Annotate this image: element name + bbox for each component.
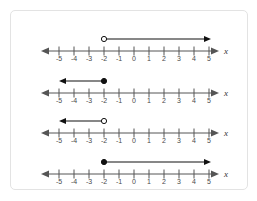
tick-label: 2 bbox=[162, 97, 166, 104]
tick-label: 4 bbox=[192, 137, 196, 144]
axis-right-arrow-icon bbox=[211, 171, 219, 178]
tick-labels-group-1: -5 -4 -3 -2 -1 0 1 2 3 4 5 bbox=[56, 55, 211, 62]
tick-label: 1 bbox=[147, 137, 151, 144]
tick-label: -5 bbox=[56, 55, 62, 62]
axis-group-1 bbox=[41, 48, 219, 55]
endpoint-closed-circle bbox=[101, 159, 106, 164]
number-line-1: -5 -4 -3 -2 -1 0 1 2 3 4 5 x bbox=[11, 22, 249, 62]
tick-label: 5 bbox=[207, 55, 211, 62]
tick-label: 3 bbox=[177, 178, 181, 185]
ray-group-4 bbox=[101, 159, 211, 165]
axis-variable-label: x bbox=[223, 88, 228, 98]
tick-label: 3 bbox=[177, 137, 181, 144]
axis-left-arrow-icon bbox=[41, 90, 49, 97]
endpoint-open-circle bbox=[101, 118, 106, 123]
number-line-2-svg: -5 -4 -3 -2 -1 0 1 2 3 4 5 x bbox=[11, 64, 249, 104]
number-line-3-svg: -5 -4 -3 -2 -1 0 1 2 3 4 5 x bbox=[11, 104, 249, 144]
tick-label: 3 bbox=[177, 55, 181, 62]
tick-label: 2 bbox=[162, 55, 166, 62]
ray-arrow-left-icon bbox=[59, 78, 66, 84]
tick-label: -2 bbox=[101, 178, 107, 185]
number-line-2: -5 -4 -3 -2 -1 0 1 2 3 4 5 x bbox=[11, 64, 249, 104]
tick-label: 0 bbox=[132, 97, 136, 104]
tick-label: 4 bbox=[192, 178, 196, 185]
axis-variable-label: x bbox=[223, 169, 228, 179]
axis-left-arrow-icon bbox=[41, 171, 49, 178]
ray-arrow-left-icon bbox=[59, 118, 66, 124]
tick-labels-group-3: -5 -4 -3 -2 -1 0 1 2 3 4 5 bbox=[56, 137, 211, 144]
tick-label: -3 bbox=[86, 137, 92, 144]
axis-left-arrow-icon bbox=[41, 48, 49, 55]
axis-right-arrow-icon bbox=[211, 130, 219, 137]
endpoint-closed-circle bbox=[101, 78, 106, 83]
axis-variable-label: x bbox=[223, 46, 228, 56]
tick-label: -1 bbox=[116, 97, 122, 104]
tick-label: 5 bbox=[207, 137, 211, 144]
tick-label: -2 bbox=[101, 137, 107, 144]
tick-label: 0 bbox=[132, 55, 136, 62]
axis-right-arrow-icon bbox=[211, 48, 219, 55]
ray-group-1 bbox=[101, 36, 211, 42]
number-line-3: -5 -4 -3 -2 -1 0 1 2 3 4 5 x bbox=[11, 104, 249, 144]
tick-label: 2 bbox=[162, 178, 166, 185]
number-line-1-svg: -5 -4 -3 -2 -1 0 1 2 3 4 5 x bbox=[11, 22, 249, 62]
number-line-4-svg: -5 -4 -3 -2 -1 0 1 2 3 4 5 x bbox=[11, 145, 249, 185]
axis-group-2 bbox=[41, 90, 219, 97]
tick-label: -1 bbox=[116, 137, 122, 144]
axis-group-4 bbox=[41, 171, 219, 178]
tick-label: -2 bbox=[101, 97, 107, 104]
tick-label: 5 bbox=[207, 178, 211, 185]
tick-label: -1 bbox=[116, 178, 122, 185]
tick-label: -1 bbox=[116, 55, 122, 62]
tick-label: 2 bbox=[162, 137, 166, 144]
ray-group-2 bbox=[59, 78, 107, 84]
tick-label: -5 bbox=[56, 137, 62, 144]
tick-label: -5 bbox=[56, 97, 62, 104]
axis-right-arrow-icon bbox=[211, 90, 219, 97]
tick-label: 3 bbox=[177, 97, 181, 104]
tick-label: 5 bbox=[207, 97, 211, 104]
tick-label: -4 bbox=[71, 178, 77, 185]
ray-arrow-right-icon bbox=[204, 36, 211, 42]
tick-label: -3 bbox=[86, 178, 92, 185]
tick-label: 1 bbox=[147, 97, 151, 104]
axis-left-arrow-icon bbox=[41, 130, 49, 137]
endpoint-open-circle bbox=[101, 36, 106, 41]
tick-label: 0 bbox=[132, 137, 136, 144]
tick-label: -4 bbox=[71, 97, 77, 104]
tick-label: -3 bbox=[86, 97, 92, 104]
figure-card: -5 -4 -3 -2 -1 0 1 2 3 4 5 x bbox=[10, 10, 248, 190]
axis-group-3 bbox=[41, 130, 219, 137]
tick-label: 1 bbox=[147, 178, 151, 185]
number-line-4: -5 -4 -3 -2 -1 0 1 2 3 4 5 x bbox=[11, 145, 249, 185]
tick-labels-group-4: -5 -4 -3 -2 -1 0 1 2 3 4 5 bbox=[56, 178, 211, 185]
ray-arrow-right-icon bbox=[204, 159, 211, 165]
tick-label: 4 bbox=[192, 55, 196, 62]
tick-label: -4 bbox=[71, 55, 77, 62]
tick-label: 4 bbox=[192, 97, 196, 104]
tick-label: 0 bbox=[132, 178, 136, 185]
tick-labels-group-2: -5 -4 -3 -2 -1 0 1 2 3 4 5 bbox=[56, 97, 211, 104]
axis-variable-label: x bbox=[223, 128, 228, 138]
tick-label: 1 bbox=[147, 55, 151, 62]
tick-label: -5 bbox=[56, 178, 62, 185]
tick-label: -3 bbox=[86, 55, 92, 62]
tick-label: -4 bbox=[71, 137, 77, 144]
tick-label: -2 bbox=[101, 55, 107, 62]
ray-group-3 bbox=[59, 118, 107, 124]
figure-root: -5 -4 -3 -2 -1 0 1 2 3 4 5 x bbox=[0, 0, 257, 201]
